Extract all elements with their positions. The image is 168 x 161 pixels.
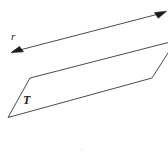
line-r-arrowhead-right — [155, 11, 167, 18]
footer-artifact-text: '' — [80, 148, 83, 155]
line-r-shaft — [17, 13, 161, 50]
line-r-group — [11, 11, 167, 52]
line-r-arrowhead-left — [11, 46, 24, 52]
geometry-figure: r T '' — [0, 0, 168, 161]
plane-t-group — [8, 41, 168, 118]
line-label-r: r — [11, 31, 15, 42]
plane-label-t: T — [23, 94, 30, 106]
plane-t-parallelogram — [8, 41, 168, 118]
geometry-canvas — [0, 0, 168, 161]
